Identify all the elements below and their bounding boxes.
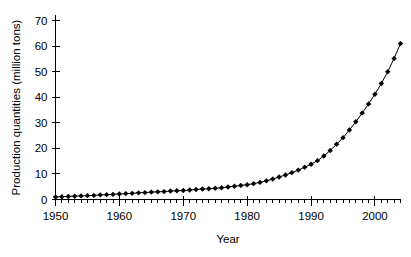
production-quantities-line-chart: 010203040506070195019601970198019902000Y… xyxy=(0,0,411,257)
y-tick-label-50: 50 xyxy=(35,66,48,78)
y-tick-label-70: 70 xyxy=(35,15,48,27)
chart-container: 010203040506070195019601970198019902000Y… xyxy=(0,0,411,257)
x-tick-label-1950: 1950 xyxy=(43,210,69,222)
x-tick-label-1970: 1970 xyxy=(170,210,196,222)
x-tick-label-2000: 2000 xyxy=(362,210,388,222)
y-tick-label-10: 10 xyxy=(35,168,48,180)
y-tick-label-60: 60 xyxy=(35,40,48,52)
y-tick-label-30: 30 xyxy=(35,117,48,129)
y-tick-label-40: 40 xyxy=(35,91,48,103)
x-tick-label-1990: 1990 xyxy=(298,210,324,222)
x-axis-title: Year xyxy=(216,233,239,245)
x-tick-label-1960: 1960 xyxy=(107,210,133,222)
y-axis-title: Production quantities (million tons) xyxy=(10,19,22,195)
y-tick-label-0: 0 xyxy=(41,194,47,206)
y-tick-label-20: 20 xyxy=(35,142,48,154)
x-tick-label-1980: 1980 xyxy=(234,210,260,222)
